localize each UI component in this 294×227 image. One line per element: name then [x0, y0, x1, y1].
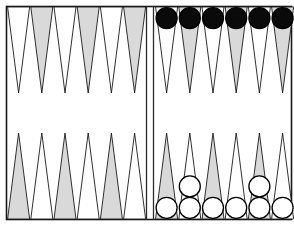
- checker-black-top-right-p5-1[interactable]: [249, 8, 270, 29]
- board-canvas[interactable]: [0, 0, 294, 227]
- backgammon-board[interactable]: [0, 0, 294, 227]
- checker-white-bottom-right-p5-2[interactable]: [249, 176, 270, 197]
- checker-white-bottom-right-p6-1[interactable]: [272, 197, 293, 218]
- checker-white-bottom-right-p5-1[interactable]: [249, 197, 270, 218]
- checker-black-top-right-p3-1[interactable]: [203, 8, 224, 29]
- checker-white-bottom-right-p1-1[interactable]: [156, 197, 177, 218]
- checker-black-top-right-p1-1[interactable]: [156, 8, 177, 29]
- checker-white-bottom-right-p4-1[interactable]: [226, 197, 247, 218]
- checker-black-top-right-p6-1[interactable]: [272, 8, 293, 29]
- checker-white-bottom-right-p2-1[interactable]: [179, 197, 200, 218]
- checker-white-bottom-right-p2-2[interactable]: [179, 176, 200, 197]
- checker-white-bottom-right-p3-1[interactable]: [203, 197, 224, 218]
- checker-black-top-right-p4-1[interactable]: [226, 8, 247, 29]
- checker-black-top-right-p2-1[interactable]: [179, 8, 200, 29]
